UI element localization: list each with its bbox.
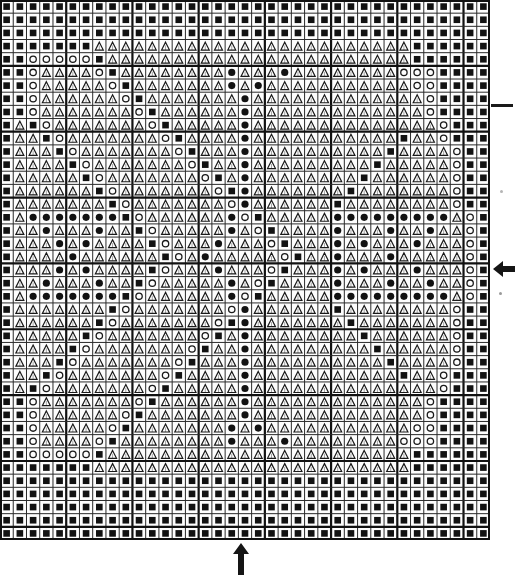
pattern-grid[interactable] — [0, 0, 490, 540]
scan-speck-2 — [500, 190, 503, 193]
center-column-arrow-up-icon — [230, 542, 252, 576]
pattern-grid-svg — [0, 0, 490, 540]
row-tick-mark-icon — [491, 104, 513, 107]
cross-stitch-chart: Cross Stitch Pattern Chart — [0, 0, 516, 577]
scan-speck-1 — [499, 292, 502, 295]
center-row-arrow-left-icon — [492, 258, 516, 280]
